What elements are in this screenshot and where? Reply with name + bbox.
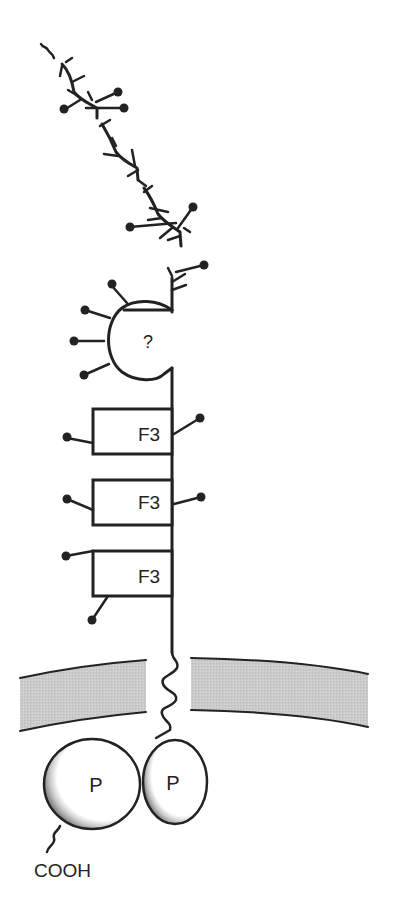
- phosphatase-label-2: P: [166, 772, 179, 794]
- fibronectin-type-iii-3: F3: [62, 551, 173, 625]
- f3-label-2: F3: [138, 492, 160, 513]
- protein-diagram: ? F3 F3 F3 P: [0, 0, 393, 912]
- phosphatase-domain-2: P: [143, 740, 207, 824]
- c-terminus-label: COOH: [34, 860, 91, 881]
- cell-membrane: [20, 658, 368, 731]
- glycan-chain: [41, 44, 198, 246]
- glycan-termini: [60, 88, 198, 232]
- unknown-domain: ?: [70, 280, 173, 380]
- f3-label-1: F3: [138, 424, 160, 445]
- stalk-upper: [168, 261, 209, 313]
- c-terminal-tail: [47, 826, 60, 852]
- phosphatase-label-1: P: [89, 774, 102, 796]
- f3-label-3: F3: [138, 566, 160, 587]
- phosphatase-domain-1: P: [44, 739, 140, 829]
- transmembrane-segment: [156, 652, 178, 738]
- fibronectin-type-iii-2: F3: [63, 480, 206, 525]
- unknown-domain-label: ?: [143, 332, 153, 352]
- fibronectin-type-iii-1: F3: [63, 409, 205, 454]
